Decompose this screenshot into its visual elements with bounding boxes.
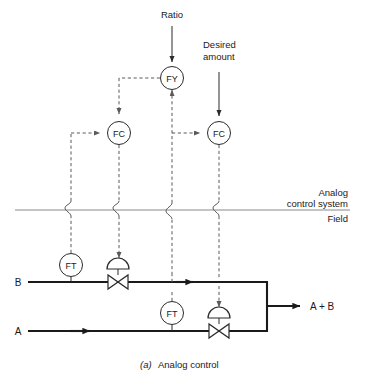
stream-a-label: A — [15, 326, 22, 337]
ft-a-tag-text: FT — [167, 309, 178, 319]
caption-prefix: (a) — [140, 359, 152, 370]
instrument-fc-b[interactable]: FC — [108, 122, 131, 145]
valve-b-body — [108, 275, 128, 289]
instrument-fy[interactable]: FY — [161, 67, 184, 90]
signal-fcb-boundary-jog — [113, 201, 119, 216]
boundary-label-field: Field — [327, 213, 348, 224]
ft-b-tag-text: FT — [66, 261, 77, 271]
caption-text: Analog control — [158, 359, 219, 370]
desired-amount-label-line2: amount — [203, 51, 235, 62]
instrument-ft-a[interactable]: FT — [161, 302, 184, 325]
valve-b-actuator-diaphragm — [107, 258, 129, 269]
fy-tag-text: FY — [166, 74, 178, 84]
valve-a-body — [209, 324, 229, 338]
boundary-label-analog-line2: control system — [287, 198, 348, 209]
figure-caption: (a) Analog control — [140, 359, 219, 370]
diagram-labels: Ratio Desired amount Analog control syst… — [15, 9, 348, 337]
desired-amount-label-line1: Desired — [203, 39, 236, 50]
fc-b-tag-text: FC — [113, 129, 125, 139]
instrument-fc-a[interactable]: FC — [208, 122, 231, 145]
control-valve-a[interactable] — [208, 307, 230, 338]
valve-a-actuator-diaphragm — [208, 307, 230, 318]
pid-canvas: FY FC FC FT FT Ratio Desired amoun — [0, 0, 375, 379]
pid-diagram: FY FC FC FT FT Ratio Desired amoun — [0, 0, 375, 379]
fc-a-tag-text: FC — [213, 129, 225, 139]
ratio-label: Ratio — [161, 9, 183, 20]
instrument-bubbles: FY FC FC FT FT — [60, 67, 231, 325]
signal-ftb-boundary-jog — [65, 201, 71, 216]
signal-lines — [65, 78, 219, 307]
boundary-label-analog-line1: Analog — [318, 187, 348, 198]
control-valve-b[interactable] — [107, 258, 129, 289]
outlet-label: A + B — [310, 301, 335, 312]
instrument-ft-b[interactable]: FT — [60, 254, 83, 277]
signal-fta-boundary-jog — [166, 203, 172, 219]
signal-fca-boundary-jog — [213, 201, 219, 216]
stream-b-label: B — [15, 277, 22, 288]
